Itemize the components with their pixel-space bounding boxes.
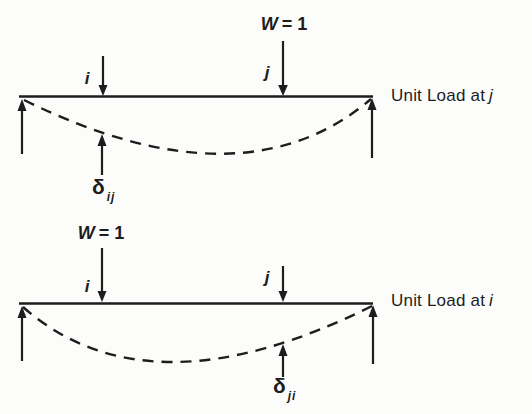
- bottom-load-arrow-at-i: [98, 248, 107, 302]
- bottom-deflection-curve: [23, 306, 372, 362]
- bottom-caption: Unit Load ati: [391, 292, 493, 309]
- bottom-deflection-arrow: [279, 344, 288, 377]
- bottom-deflection-subscript: ji: [288, 389, 297, 403]
- bottom-load-value: = 1: [99, 223, 125, 243]
- top-caption-text: Unit Load at: [391, 86, 485, 105]
- reciprocal-theorem-figure: W= 1 i j Unit Load atj δij W= 1 i j Unit…: [0, 0, 532, 414]
- top-load-label: W= 1: [261, 15, 308, 33]
- top-caption-point: j: [489, 86, 493, 105]
- top-left-support-arrow: [18, 99, 27, 154]
- top-point-i-label: i: [85, 70, 90, 87]
- bottom-right-support-arrow: [369, 305, 378, 364]
- bottom-diagram: [18, 248, 378, 377]
- bottom-point-j-arrow: [279, 266, 288, 302]
- bottom-load-arrowhead: [98, 291, 107, 302]
- top-load-value: = 1: [282, 14, 308, 34]
- bottom-load-label: W= 1: [78, 224, 125, 242]
- top-load-symbol: W: [261, 14, 278, 34]
- top-deflection-arrow: [98, 134, 107, 175]
- top-point-i-arrow: [99, 56, 108, 96]
- bottom-point-j-label: j: [265, 269, 270, 286]
- top-right-support-arrow: [368, 98, 377, 158]
- top-point-j-label: j: [265, 64, 270, 81]
- top-deflection-label: δij: [92, 176, 113, 197]
- top-deflection-symbol: δ: [92, 175, 105, 198]
- top-deflection-subscript: ij: [107, 190, 116, 204]
- top-load-arrow-at-j: [278, 41, 288, 96]
- bottom-deflection-symbol: δ: [273, 374, 286, 397]
- bottom-caption-text: Unit Load at: [391, 291, 485, 310]
- bottom-caption-point: i: [489, 291, 493, 310]
- bottom-deflection-label: δji: [273, 375, 294, 396]
- top-point-i-arrowhead: [99, 85, 108, 96]
- bottom-load-symbol: W: [78, 223, 95, 243]
- top-diagram: [18, 41, 377, 175]
- top-load-arrowhead: [278, 85, 288, 96]
- top-caption: Unit Load atj: [391, 87, 493, 104]
- bottom-deflection-arrowhead: [279, 344, 288, 356]
- bottom-point-j-arrowhead: [279, 291, 288, 302]
- top-deflection-arrowhead: [98, 134, 107, 146]
- bottom-point-i-label: i: [85, 278, 90, 295]
- bottom-left-support-arrow: [18, 306, 27, 361]
- top-deflection-curve: [24, 99, 371, 154]
